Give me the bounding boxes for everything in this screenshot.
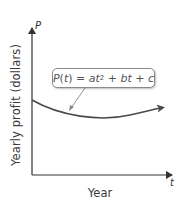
x-axis-label: Year [88,186,112,200]
eq-plus2: + [132,72,148,85]
y-axis-label: Yearly profit (dollars) [9,44,23,166]
eq-b: b [120,72,127,85]
eq-a: a [89,72,96,85]
x-axis-variable: t [170,177,174,188]
eq-fn: P [53,72,60,85]
annotation-pointer [71,88,85,108]
annotation-pointer-arrowhead [69,105,74,111]
chart-canvas [0,0,182,209]
profit-curve [32,100,163,118]
eq-c: c [148,72,154,85]
equation-callout: P(t) = at2 + bt + c [52,68,155,88]
chart: Yearly profit (dollars) Year P t P(t) = … [0,0,182,209]
y-axis-variable: P [35,20,41,31]
eq-equals: = [73,72,89,85]
eq-plus1: + [104,72,120,85]
